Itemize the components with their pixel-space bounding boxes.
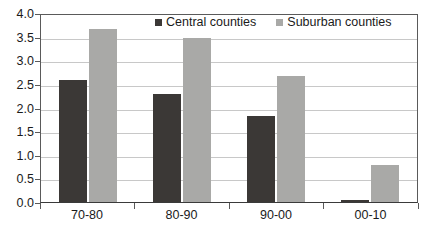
bar-suburban-counties-90-00: [277, 76, 305, 202]
bar-central-counties-70-80: [59, 80, 87, 202]
legend-entry-suburban-counties: Suburban counties: [276, 16, 391, 29]
legend-swatch-icon: [155, 19, 162, 26]
bar-central-counties-90-00: [247, 116, 275, 202]
bar-suburban-counties-80-90: [183, 38, 211, 202]
legend-label: Suburban counties: [287, 16, 391, 29]
legend-swatch-icon: [276, 19, 283, 26]
legend-label: Central counties: [166, 16, 256, 29]
x-category-label-70-80: 70-80: [40, 209, 134, 223]
x-category-label-00-10: 00-10: [323, 209, 418, 223]
x-category-label-80-90: 80-90: [134, 209, 229, 223]
bar-chart: 4.0 3.5 3.0 2.5 2.0 1.5 1.0 0.5 0.0: [0, 0, 431, 239]
x-category-label-90-00: 90-00: [229, 209, 323, 223]
bar-central-counties-00-10: [341, 200, 369, 202]
bar-central-counties-80-90: [153, 94, 181, 202]
y-axis-tick-marks: [0, 14, 40, 203]
x-tick-mark: [418, 203, 419, 209]
bar-suburban-counties-00-10: [371, 165, 399, 202]
legend-entry-central-counties: Central counties: [155, 16, 256, 29]
plot-area: [40, 14, 418, 203]
bar-suburban-counties-70-80: [89, 29, 117, 202]
legend: Central counties Suburban counties: [155, 16, 392, 29]
